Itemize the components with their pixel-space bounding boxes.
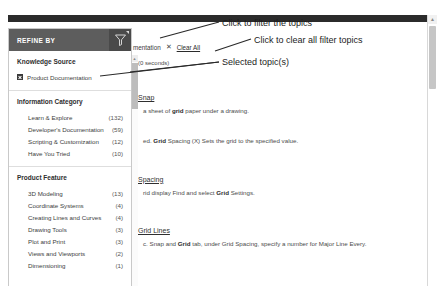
result-snippet: a sheet of grid paper under a drawing.: [138, 107, 416, 115]
facet-item-scripting-and-customization[interactable]: Scripting & Customization (12): [17, 135, 123, 147]
facet-item-count: (4): [111, 214, 123, 221]
facet-item-coordinate-systems[interactable]: Coordinate Systems (4): [17, 199, 123, 211]
clear-all-link[interactable]: Clear All: [177, 44, 200, 51]
result-item: Grid Lines c. Snap and Grid tab, under G…: [138, 219, 416, 248]
result-snippet: ed. Grid Spacing (X) Sets the grid to th…: [138, 137, 416, 145]
facet-item-count: (2): [111, 250, 123, 257]
facet-item-count: (13): [108, 190, 123, 197]
selected-filter-chip-label: mentation: [133, 44, 161, 51]
facet-group-information-category: Information Category Learn & Explore (13…: [9, 91, 131, 167]
snippet-pre: c. Snap and: [143, 240, 178, 247]
facet-item-count: (10): [108, 150, 123, 157]
result-snippet: rid display Find and select Grid Setting…: [138, 189, 416, 197]
annotation-clear-all-topics: Click to clear all filter topics: [254, 35, 363, 45]
facet-item-have-you-tried[interactable]: Have You Tried (10): [17, 147, 123, 159]
snippet-highlight: Grid: [178, 240, 191, 247]
result-item: Spacing rid display Find and select Grid…: [138, 168, 416, 197]
screenshot-root: ▲ REFINE BY Knowledge Source Product Doc…: [0, 0, 437, 286]
facet-group-product-feature: Product Feature 3D Modeling (13) Coordin…: [9, 167, 131, 278]
snippet-highlight: grid: [172, 107, 184, 114]
facet-item-creating-lines-and-curves[interactable]: Creating Lines and Curves (4): [17, 211, 123, 223]
annotation-selected-topics: Selected topic(s): [222, 57, 289, 67]
page-scrollbar-thumb[interactable]: [429, 26, 436, 89]
close-icon[interactable]: ✕: [166, 43, 172, 51]
annotation-filter-topics: Click to filter the topics: [222, 18, 312, 28]
facet-group-title: Knowledge Source: [17, 58, 123, 65]
facet-item-label: Dimensioning: [28, 262, 111, 269]
scroll-up-arrow-icon[interactable]: ▲: [131, 55, 138, 62]
facet-item-label: Have You Tried: [28, 150, 108, 157]
facet-group-title: Information Category: [17, 98, 123, 105]
content-scrollbar[interactable]: ▲: [131, 55, 138, 286]
facet-item-developers-documentation[interactable]: Developer's Documentation (59): [17, 123, 123, 135]
funnel-icon[interactable]: [109, 29, 131, 51]
snippet-highlight: Grid: [153, 137, 166, 144]
snippet-pre: a sheet of: [143, 107, 172, 114]
application-top-bar: [8, 15, 429, 22]
facet-item-count: (3): [111, 226, 123, 233]
facet-item-drawing-tools[interactable]: Drawing Tools (3): [17, 223, 123, 235]
facet-item-count: (59): [108, 126, 123, 133]
facet-item-label: Drawing Tools: [28, 226, 111, 233]
result-title-link[interactable]: Spacing: [138, 176, 163, 183]
facet-item-label: Plot and Print: [28, 238, 111, 245]
snippet-post: Spacing (X) Sets the grid to the specifi…: [166, 137, 298, 144]
snippet-post: tab, under Grid Spacing, specify a numbe…: [190, 240, 366, 247]
facet-item-dimensioning[interactable]: Dimensioning (1): [17, 259, 123, 271]
facet-item-3d-modeling[interactable]: 3D Modeling (13): [17, 187, 123, 199]
facet-item-label: Product Documentation: [27, 74, 123, 81]
facet-item-label: Learn & Explore: [28, 114, 105, 121]
snippet-post: paper under a drawing.: [184, 107, 249, 114]
facet-item-count: (12): [108, 138, 123, 145]
facet-group-knowledge-source: Knowledge Source Product Documentation: [9, 51, 131, 91]
checkbox-checked-icon[interactable]: [17, 74, 23, 80]
facet-item-label: Views and Viewports: [28, 250, 111, 257]
snippet-post: Settings.: [229, 189, 255, 196]
scroll-up-arrow-icon[interactable]: ▲: [428, 15, 437, 24]
facet-item-label: Developer's Documentation: [28, 126, 108, 133]
facet-item-learn-and-explore[interactable]: Learn & Explore (132): [17, 111, 123, 123]
result-item: ed. Grid Spacing (X) Sets the grid to th…: [138, 137, 416, 145]
refine-by-panel: REFINE BY Knowledge Source Product Docum…: [8, 28, 132, 286]
facet-item-label: Scripting & Customization: [28, 138, 108, 145]
result-item: Snap a sheet of grid paper under a drawi…: [138, 86, 416, 115]
selected-filter-chip-row: mentation ✕ Clear All: [133, 43, 200, 51]
facet-item-plot-and-print[interactable]: Plot and Print (3): [17, 235, 123, 247]
facet-item-count: (132): [105, 114, 123, 121]
facet-item-count: (1): [111, 262, 123, 269]
funnel-corner-marker: [126, 31, 129, 34]
search-results-list: (0 seconds) Snap a sheet of grid paper u…: [138, 60, 416, 270]
snippet-highlight: Grid: [216, 189, 229, 196]
facet-item-views-and-viewports[interactable]: Views and Viewports (2): [17, 247, 123, 259]
facet-item-product-documentation[interactable]: Product Documentation: [17, 71, 123, 83]
facet-item-count: (3): [111, 238, 123, 245]
facet-item-label: 3D Modeling: [28, 190, 108, 197]
snippet-pre: ed.: [143, 137, 153, 144]
result-title-link[interactable]: Grid Lines: [138, 227, 170, 234]
snippet-pre: rid display Find and select: [143, 189, 216, 196]
facet-item-count: (4): [111, 202, 123, 209]
facet-item-label: Creating Lines and Curves: [28, 214, 111, 221]
facet-item-label: Coordinate Systems: [28, 202, 111, 209]
result-title-link[interactable]: Snap: [138, 94, 154, 101]
page-scrollbar[interactable]: ▲: [427, 15, 437, 286]
content-scrollbar-thumb[interactable]: [131, 63, 138, 109]
refine-by-title: REFINE BY: [17, 37, 55, 44]
result-snippet: c. Snap and Grid tab, under Grid Spacing…: [138, 240, 416, 248]
facet-group-title: Product Feature: [17, 174, 123, 181]
refine-by-header: REFINE BY: [9, 29, 131, 51]
